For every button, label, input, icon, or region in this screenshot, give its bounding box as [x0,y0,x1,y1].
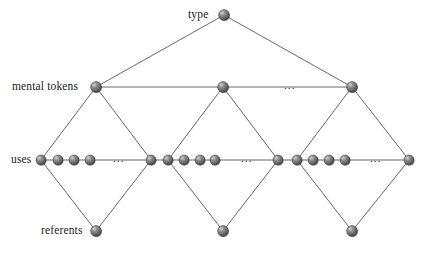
node-sphere [340,155,350,165]
node-highlight [87,157,90,159]
row-label-referents: referents [41,225,83,237]
node-sphere [69,155,79,165]
node-sphere [53,155,63,165]
node-highlight [342,157,345,159]
row-label-type: type [188,9,208,21]
node-highlight [71,157,74,159]
graph-edge [352,160,409,231]
node-highlight [212,157,215,159]
ellipsis-marker: ... [370,153,382,164]
node-highlight [55,157,58,159]
graph-node-referents [218,226,229,238]
graph-edge [96,87,151,160]
graph-node-uses [308,155,319,166]
node-sphere [195,155,205,165]
node-highlight [93,84,96,87]
graph-node-type [219,10,230,21]
graph-edge [168,87,223,160]
node-highlight [197,157,200,159]
graph-edge [168,160,223,231]
graph-node-uses [53,155,64,166]
ellipsis-marker: ... [284,80,296,91]
node-sphere [91,82,102,93]
node-sphere [179,155,189,165]
graph-edge [297,87,352,160]
node-sphere [347,82,358,93]
row-label-mental-tokens: mental tokens [12,81,78,93]
node-sphere [218,226,229,237]
graph-edge [41,160,96,231]
node-highlight [220,228,223,231]
node-highlight [349,228,352,231]
node-highlight [181,157,184,159]
node-sphere [292,155,302,165]
node-sphere [347,226,358,237]
row-label-uses: uses [11,154,31,166]
graph-edge [297,160,352,231]
graph-edge [41,87,96,160]
node-highlight [406,157,409,159]
graph-node-referents [91,226,102,238]
ellipsis-marker: ... [113,153,125,164]
graph-node-uses [292,155,303,166]
node-highlight [310,157,313,159]
graph-node-uses [85,155,96,166]
node-sphere [163,155,173,165]
graph-node-uses [163,155,174,166]
node-sphere [219,10,230,21]
node-highlight [349,84,352,87]
ellipsis-marker: ... [241,153,253,164]
node-sphere [146,155,156,165]
node-highlight [275,157,278,159]
graph-node-uses [69,155,80,166]
edges-layer [41,15,409,231]
graph-edge [96,15,224,87]
nodes-layer [36,10,415,238]
node-highlight [148,157,151,159]
diagram-graphics [0,0,424,255]
graph-node-uses [36,155,47,166]
graph-edge [223,87,278,160]
node-highlight [93,228,96,231]
graph-edge [96,160,151,231]
node-highlight [326,157,329,159]
node-highlight [221,12,224,15]
node-sphere [85,155,95,165]
node-sphere [308,155,318,165]
node-sphere [210,155,220,165]
node-highlight [294,157,297,159]
graph-node-uses [179,155,190,166]
node-sphere [324,155,334,165]
node-sphere [404,155,414,165]
node-sphere [91,226,102,237]
node-highlight [38,157,41,159]
graph-node-uses [195,155,206,166]
diagram-canvas: type mental tokens uses referents ......… [0,0,424,255]
node-highlight [220,84,223,87]
graph-node-uses [324,155,335,166]
graph-edge [352,87,409,160]
graph-node-uses [340,155,351,166]
node-highlight [165,157,168,159]
node-sphere [36,155,46,165]
graph-node-uses [210,155,221,166]
graph-edge [223,160,278,231]
node-sphere [273,155,283,165]
graph-node-referents [347,226,358,238]
graph-edge [224,15,352,87]
node-sphere [218,82,229,93]
